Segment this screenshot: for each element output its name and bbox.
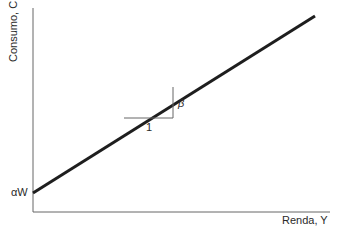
rise-label: β <box>178 97 184 109</box>
consumption-diagram <box>0 0 340 228</box>
intercept-label: αW <box>11 186 28 198</box>
y-axis-label: Consumo, C <box>7 1 19 62</box>
x-axis-label: Renda, Y <box>282 214 328 226</box>
consumption-line <box>33 16 315 193</box>
run-label: 1 <box>146 121 152 133</box>
